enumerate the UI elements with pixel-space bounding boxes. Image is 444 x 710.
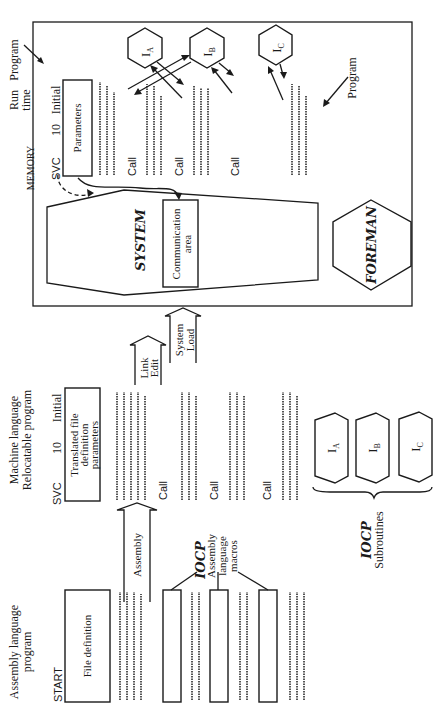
initial-label: Initial [49, 85, 63, 114]
subroutine-ib: IB [356, 413, 389, 483]
assembly-section: Assembly language program START File def… [7, 534, 304, 703]
macros-pointer-1 [171, 572, 197, 590]
machine-title-2: Relocatable program [20, 389, 34, 490]
code-lines [292, 84, 306, 175]
machine-title-1: Machine language [7, 396, 21, 484]
iocp-diagram: Program Run time MEMORY SVC 10 Initial P… [0, 0, 444, 710]
start-label: START [52, 667, 64, 702]
link-edit-arrow: Link Edit [130, 336, 166, 385]
machine-call-1: Call [157, 481, 169, 500]
svc-label: SVC [50, 157, 62, 180]
subroutine-ia: IA [315, 413, 348, 483]
assembly-title-2: program [20, 631, 34, 672]
assembly-arrow: Assembly [117, 503, 157, 602]
arrowhead-icon [174, 192, 182, 200]
foreman-brand: FOREMAN [364, 205, 379, 285]
macro-box-1 [163, 590, 181, 702]
runtime-section: Program Run time MEMORY SVC 10 Initial P… [7, 22, 412, 306]
system-brand: SYSTEM [133, 208, 148, 271]
code-lines [147, 84, 161, 175]
machine-svc: SVC [51, 482, 63, 505]
macros-label-3: macros [227, 540, 239, 572]
code-lines [230, 392, 244, 500]
parameters-label: Parameters [71, 104, 83, 153]
hexagon-ic: IC [259, 25, 292, 65]
svc-num: 10 [49, 124, 63, 136]
code-lines [290, 592, 304, 700]
runtime-call-2: Call [173, 157, 185, 176]
memory-label: MEMORY [25, 146, 36, 190]
link-edit-line2: Edit [148, 359, 160, 377]
subroutines-brace [313, 487, 432, 498]
svc-dashed-arrow [58, 175, 90, 195]
runtime-title-2: time [19, 89, 33, 110]
code-lines [100, 82, 114, 175]
assembly-arrow-label: Assembly [131, 533, 143, 578]
machine-initial: Initial [50, 393, 64, 422]
system-load-line2: Load [184, 328, 196, 351]
arrowhead-icon [87, 189, 94, 197]
communication-line2: area [181, 235, 193, 253]
code-lines [192, 592, 199, 700]
system-load-arrow: System Load [165, 308, 201, 363]
code-lines [283, 392, 297, 500]
machine-svc-num: 10 [50, 442, 64, 454]
hexagon-ib: IB [190, 28, 224, 68]
machine-call-2: Call [208, 481, 220, 500]
machine-call-3: Call [261, 481, 273, 500]
code-lines [120, 592, 141, 700]
runtime-program-label: Program [7, 39, 21, 81]
translated-line3: parameters [88, 421, 100, 469]
subroutine-ic: IC [399, 412, 432, 482]
runtime-call-3: Call [229, 157, 241, 176]
assembly-title-1: Assembly language [7, 605, 21, 699]
code-lines [182, 392, 196, 500]
macro-box-3 [259, 590, 277, 702]
runtime-call-1: Call [126, 157, 138, 176]
code-lines [240, 592, 247, 700]
file-definition-label: File definition [81, 614, 93, 677]
code-lines [117, 392, 145, 500]
macros-pointer-3 [238, 572, 268, 590]
subroutines-label: Subroutines [372, 511, 386, 569]
hexagon-ia: IA [128, 28, 162, 68]
code-lines [194, 86, 208, 175]
macro-box-2 [210, 590, 228, 702]
